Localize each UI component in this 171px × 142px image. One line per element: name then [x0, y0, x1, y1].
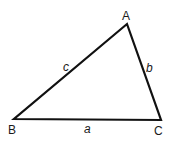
vertex-label-a: A	[122, 9, 130, 23]
side-label-a: a	[84, 122, 91, 136]
side-label-b: b	[146, 61, 153, 75]
side-label-c: c	[63, 60, 69, 74]
triangle-diagram: A B C c b a	[0, 0, 171, 142]
vertex-label-c: C	[154, 124, 163, 138]
vertex-label-b: B	[8, 123, 16, 137]
triangle-abc	[14, 24, 161, 120]
